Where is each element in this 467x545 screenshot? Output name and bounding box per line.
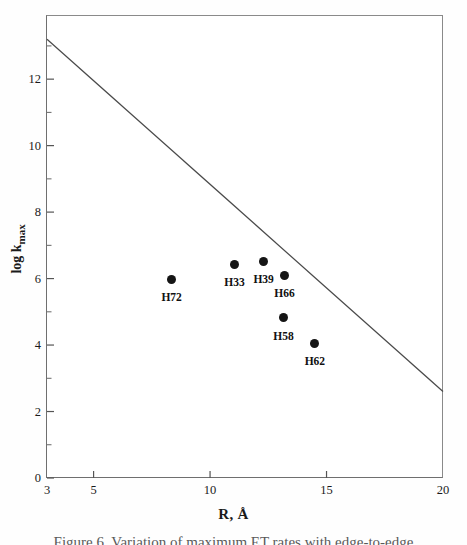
plot-frame <box>46 15 443 478</box>
figure-caption-partial: Figure 6. Variation of maximum ET rates … <box>0 534 467 545</box>
data-point-h62[interactable] <box>310 339 319 348</box>
data-point-label-h33: H33 <box>224 277 244 289</box>
y-tick-label: 2 <box>15 406 41 419</box>
data-point-h33[interactable] <box>230 260 239 269</box>
data-point-label-h39: H39 <box>253 274 273 286</box>
data-point-label-h58: H58 <box>273 331 293 343</box>
data-point-label-h62: H62 <box>305 356 325 368</box>
x-axis-title: R, Å <box>0 506 467 523</box>
y-axis-title: log kmax <box>9 194 27 304</box>
data-point-h72[interactable] <box>167 275 176 284</box>
y-tick-label: 12 <box>15 73 41 86</box>
figure-container: 02468101235101520H72H33H39H66H58H62 log … <box>0 0 467 545</box>
x-tick-label: 3 <box>34 484 60 497</box>
y-tick-label: 0 <box>15 472 41 485</box>
x-tick-label: 5 <box>81 484 107 497</box>
data-point-h39[interactable] <box>259 257 268 266</box>
y-axis-title-subscript: max <box>15 224 27 244</box>
x-tick-label: 20 <box>430 484 456 497</box>
data-point-label-h66: H66 <box>274 288 294 300</box>
data-point-h66[interactable] <box>280 271 289 280</box>
x-tick-label: 15 <box>314 484 340 497</box>
data-point-label-h72: H72 <box>161 292 181 304</box>
y-tick-label: 4 <box>15 339 41 352</box>
x-tick-label: 10 <box>197 484 223 497</box>
y-axis-title-main: log k <box>9 244 24 273</box>
y-tick-label: 10 <box>15 140 41 153</box>
